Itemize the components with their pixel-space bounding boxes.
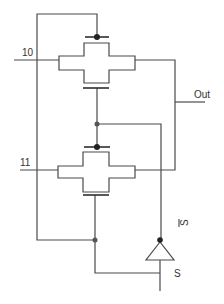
input-label-11: 11 <box>20 157 31 168</box>
select-bar-label: S <box>179 219 190 226</box>
svg-text:S: S <box>179 219 190 226</box>
transmission-gate-1 <box>59 34 135 88</box>
inversion-bubble-icon <box>94 144 100 150</box>
inversion-bubble-icon <box>157 237 163 243</box>
select-label: S <box>174 268 181 279</box>
input-label-10: 10 <box>22 47 34 58</box>
transmission-gate-2 <box>58 144 135 195</box>
junction-dot <box>93 238 98 243</box>
junction-dot <box>95 122 100 127</box>
inversion-bubble-icon <box>94 34 100 40</box>
inverter <box>146 237 174 260</box>
mux-circuit-diagram: 10 11 Out S S <box>0 0 224 304</box>
output-label: Out <box>194 89 210 100</box>
